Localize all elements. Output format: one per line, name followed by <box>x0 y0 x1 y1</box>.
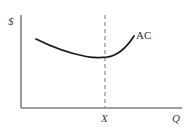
ac-curve-label: AC <box>136 29 151 41</box>
y-axis-label: $ <box>8 15 14 27</box>
x-axis-label: Q <box>172 112 180 124</box>
cost-curve-figure: $ Q X AC <box>0 0 190 130</box>
average-cost-curve <box>36 36 134 58</box>
x-tick-label-x: X <box>100 112 109 124</box>
ac-curve-chart: $ Q X AC <box>0 0 190 130</box>
